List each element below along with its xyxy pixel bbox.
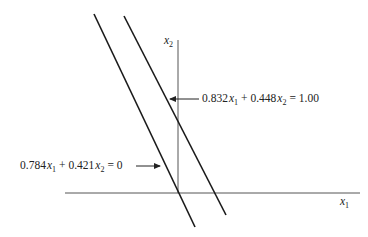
x1-axis-label: x1 (339, 195, 349, 210)
equation-offset-line: 0.832x1+0.448x2= 1.00 (202, 92, 319, 107)
line-through-origin (94, 14, 195, 227)
x2-axis-label: x2 (163, 34, 173, 49)
diagram-svg: x2 x1 0.832x1+0.448x2= 1.00 0.784x1+0.42… (0, 0, 368, 237)
diagram-canvas: x2 x1 0.832x1+0.448x2= 1.00 0.784x1+0.42… (0, 0, 368, 237)
equation-origin-line: 0.784x1+0.421x2= 0 (20, 159, 123, 174)
